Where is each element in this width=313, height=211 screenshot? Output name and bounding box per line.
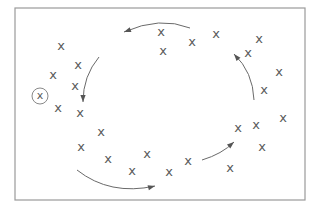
cluster-diagram: xxxxxxxxxxxxxxxxxxxxxxxxxx x xyxy=(0,0,313,211)
outlier-point: x xyxy=(32,88,48,104)
x-marker: x xyxy=(244,45,252,60)
arrow-left xyxy=(80,57,99,102)
x-marker: x xyxy=(188,34,196,49)
arrow-line xyxy=(234,54,254,100)
x-marker: x xyxy=(57,38,65,53)
data-points: xxxxxxxxxxxxxxxxxxxxxxxxxx xyxy=(49,24,287,179)
x-marker: x xyxy=(159,43,167,58)
x-marker: x xyxy=(97,124,105,139)
x-marker: x xyxy=(226,160,234,175)
x-marker: x xyxy=(255,31,263,46)
arrow-line xyxy=(77,170,155,189)
x-marker: x xyxy=(71,78,79,93)
x-marker: x xyxy=(157,24,165,39)
x-marker: x xyxy=(76,105,84,120)
x-marker: x xyxy=(184,153,192,168)
x-marker: x xyxy=(212,26,220,41)
x-marker: x xyxy=(128,163,136,178)
outlier-marker: x xyxy=(37,89,44,102)
x-marker: x xyxy=(260,82,268,97)
arrow-lower-right xyxy=(202,140,236,160)
arrowhead-icon xyxy=(80,95,85,102)
x-marker: x xyxy=(165,164,173,179)
x-marker: x xyxy=(54,100,62,115)
x-marker: x xyxy=(77,139,85,154)
x-marker: x xyxy=(143,146,151,161)
x-marker: x xyxy=(49,67,57,82)
x-marker: x xyxy=(234,120,242,135)
x-marker: x xyxy=(74,57,82,72)
x-marker: x xyxy=(252,117,260,132)
arrowhead-icon xyxy=(123,27,131,34)
x-marker: x xyxy=(258,139,266,154)
x-marker: x xyxy=(275,64,283,79)
x-marker: x xyxy=(279,110,287,125)
arrow-bottom xyxy=(77,170,156,190)
x-marker: x xyxy=(104,151,112,166)
arrowhead-icon xyxy=(148,183,156,190)
